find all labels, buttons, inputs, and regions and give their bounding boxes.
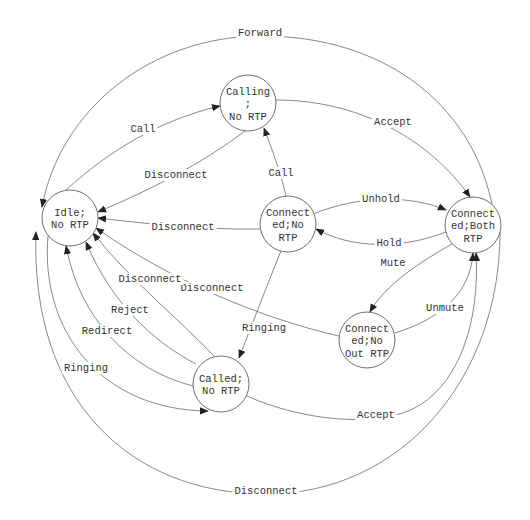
state-label-line: Called; bbox=[199, 373, 243, 385]
edge-label-idle-calling-call: Call bbox=[130, 123, 155, 135]
state-label-line: ; bbox=[245, 98, 251, 110]
state-node-called: Called;No RTP bbox=[193, 356, 249, 412]
edge-label-connno-both-unhold: Unhold bbox=[362, 193, 400, 205]
state-label-line: No RTP bbox=[202, 385, 240, 397]
state-label-line: No RTP bbox=[229, 111, 267, 123]
edge-label-both-noout-mute: Mute bbox=[380, 257, 405, 269]
state-node-connected-both: Connected;BothRTP bbox=[445, 197, 501, 253]
edge-label-both-connno-hold: Hold bbox=[376, 237, 401, 249]
state-label-line: RTP bbox=[464, 233, 483, 245]
edge-ringing-connno-called bbox=[239, 251, 281, 358]
state-label-line: RTP bbox=[279, 232, 298, 244]
edge-label-both-idle-disconnect: Disconnect bbox=[234, 485, 297, 497]
state-label-line: Idle; bbox=[54, 207, 86, 219]
state-node-idle: Idle;No RTP bbox=[42, 190, 98, 246]
state-label-line: Connect bbox=[266, 207, 310, 219]
state-diagram: CallDisconnectAcceptCallDisconnectUnhold… bbox=[0, 0, 530, 520]
edge-label-calling-idle-disconnect: Disconnect bbox=[144, 169, 207, 181]
edge-label-called-both-accept: Accept bbox=[357, 409, 395, 421]
state-label-line: ed;No bbox=[272, 219, 304, 231]
edge-label-connno-calling-call: Call bbox=[268, 167, 293, 179]
state-label-line: Calling bbox=[226, 86, 270, 98]
state-label-line: Connect bbox=[451, 208, 495, 220]
state-node-connected-no: Connected;NoRTP bbox=[260, 196, 316, 252]
state-node-calling: Calling;No RTP bbox=[220, 75, 276, 131]
edge-label-noout-both-unmute: Unmute bbox=[426, 302, 464, 314]
edge-reject bbox=[86, 242, 196, 364]
edge-label-both-idle-forward: Forward bbox=[238, 27, 282, 39]
edge-label-connno-called-ringing: Ringing bbox=[242, 322, 286, 334]
state-label-line: Out RTP bbox=[345, 348, 389, 360]
edge-accept-calling-both bbox=[276, 100, 470, 197]
edge-call-connno-calling bbox=[264, 128, 286, 196]
state-label-line: No RTP bbox=[51, 219, 89, 231]
state-label-line: ed;Both bbox=[451, 220, 495, 232]
edge-label-calling-both-accept: Accept bbox=[374, 116, 412, 128]
edge-ringing-idle-called bbox=[47, 236, 208, 411]
edge-label-called-idle-reject: Reject bbox=[111, 304, 149, 316]
edge-label-connno-idle-disconnect: Disconnect bbox=[151, 221, 214, 233]
edge-label-called-idle-disconnect: Disconnect bbox=[118, 273, 181, 285]
nodes: Idle;No RTPCalling;No RTPConnected;NoRTP… bbox=[42, 75, 501, 412]
edge-label-noout-idle-disconnect: Disconnect bbox=[180, 282, 243, 294]
edge-label-called-idle-redirect: Redirect bbox=[82, 325, 132, 337]
state-label-line: Connect bbox=[345, 323, 389, 335]
edge-label-idle-called-ringing: Ringing bbox=[64, 362, 108, 374]
state-label-line: ed;No bbox=[351, 335, 383, 347]
state-node-connected-noout: Connected;NoOut RTP bbox=[339, 312, 395, 368]
